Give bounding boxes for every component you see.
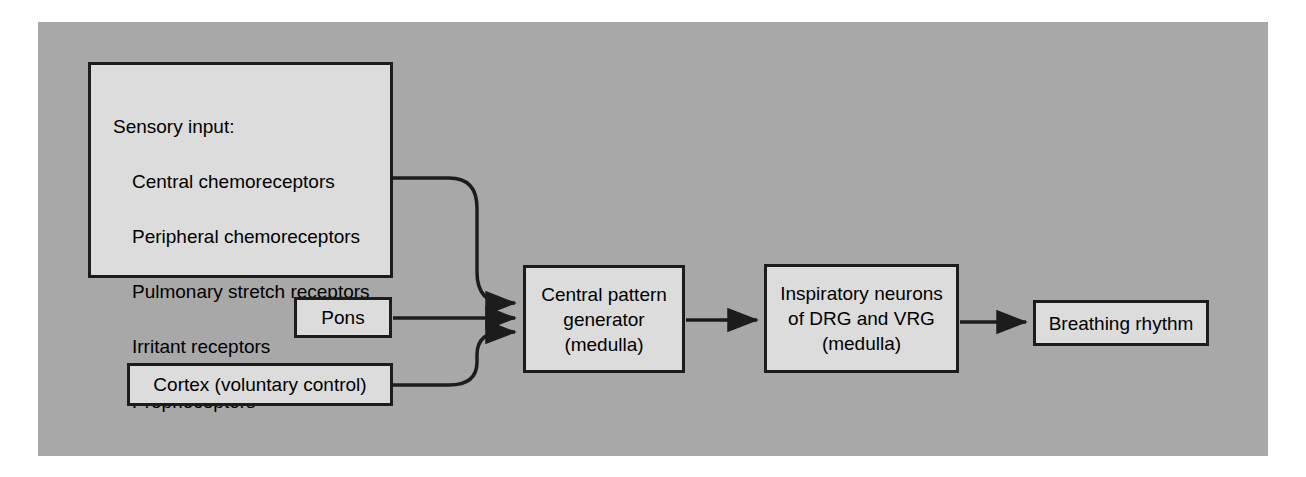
node-sensory-input: Sensory input: Central chemoreceptors Pe… bbox=[88, 62, 393, 278]
node-pons: Pons bbox=[294, 297, 392, 338]
sensory-input-item-central-chemoreceptors: Central chemoreceptors bbox=[113, 167, 390, 197]
figure-canvas: Sensory input: Central chemoreceptors Pe… bbox=[0, 0, 1306, 477]
sensory-input-item-peripheral-chemoreceptors: Peripheral chemoreceptors bbox=[113, 222, 390, 252]
node-central-pattern-generator-label: Central pattern generator (medulla) bbox=[541, 282, 667, 357]
node-cortex: Cortex (voluntary control) bbox=[127, 363, 393, 406]
node-inspiratory-neurons-label: Inspiratory neurons of DRG and VRG (medu… bbox=[780, 281, 943, 356]
node-central-pattern-generator: Central pattern generator (medulla) bbox=[523, 265, 685, 373]
node-pons-label: Pons bbox=[321, 305, 364, 330]
node-breathing-rhythm-label: Breathing rhythm bbox=[1049, 311, 1194, 336]
node-cortex-label: Cortex (voluntary control) bbox=[153, 372, 366, 397]
sensory-input-heading: Sensory input: bbox=[113, 112, 390, 142]
node-breathing-rhythm: Breathing rhythm bbox=[1033, 300, 1209, 346]
node-inspiratory-neurons: Inspiratory neurons of DRG and VRG (medu… bbox=[764, 264, 959, 373]
